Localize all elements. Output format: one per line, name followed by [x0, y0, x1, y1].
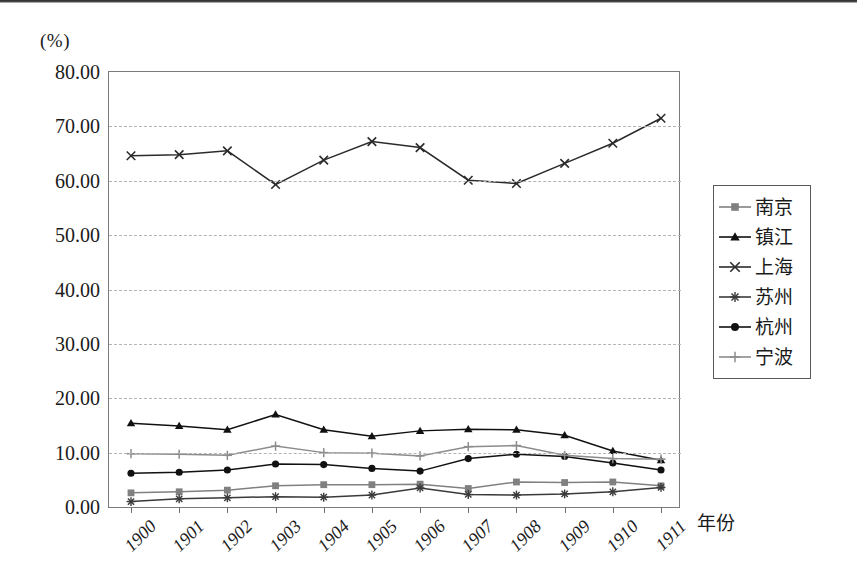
data-point-asterisk: [127, 497, 136, 506]
x-tick-label: 1902: [217, 516, 257, 556]
y-tick-label: 80.00: [8, 62, 100, 82]
data-point-plus: [512, 441, 521, 450]
legend-marker-cross-x-icon: [718, 257, 752, 277]
y-axis-unit-label: (%): [40, 30, 70, 52]
data-point-cross-x: [609, 139, 618, 148]
data-point-asterisk: [730, 292, 740, 302]
x-tick-label: 1907: [458, 516, 498, 556]
data-point-asterisk: [512, 491, 521, 500]
series-上海: [127, 114, 666, 189]
x-tick-label: 1905: [361, 516, 401, 556]
gridline: [109, 344, 681, 345]
legend-label: 杭州: [752, 318, 793, 337]
y-tick-label: 0.00: [8, 497, 100, 517]
legend-label: 宁波: [752, 348, 793, 367]
data-point-asterisk: [657, 483, 666, 492]
legend-label: 上海: [752, 258, 793, 277]
gridline: [109, 235, 681, 236]
data-point-asterisk: [560, 490, 569, 499]
x-axis-title: 年份: [697, 508, 735, 535]
x-tick-label: 1908: [506, 516, 546, 556]
y-tick-label: 40.00: [8, 280, 100, 300]
legend-marker-square-icon: [718, 197, 752, 217]
x-tick-label: 1904: [313, 516, 353, 556]
legend-marker-asterisk-icon: [718, 287, 752, 307]
y-tick-label: 20.00: [8, 388, 100, 408]
legend-item-上海[interactable]: 上海: [718, 252, 806, 282]
legend-item-杭州[interactable]: 杭州: [718, 312, 806, 342]
data-point-square: [176, 488, 183, 495]
data-point-square: [609, 479, 616, 486]
gridline: [109, 453, 681, 454]
legend-marker-circle-icon: [718, 317, 752, 337]
data-point-square: [272, 482, 279, 489]
data-point-triangle: [271, 410, 280, 417]
data-point-plus: [175, 450, 184, 459]
data-point-cross-x: [319, 156, 328, 165]
legend-marker-triangle-icon: [718, 227, 752, 247]
data-point-square: [561, 479, 568, 486]
data-point-plus: [271, 442, 280, 451]
x-axis-tick-labels: 1900190119021903190419051906190719081909…: [108, 508, 680, 578]
data-point-circle: [272, 460, 279, 467]
gridline: [109, 181, 681, 182]
data-point-asterisk: [464, 490, 473, 499]
gridline: [109, 290, 681, 291]
x-tick-label: 1909: [554, 516, 594, 556]
data-point-circle: [127, 470, 134, 477]
data-point-square: [128, 489, 135, 496]
data-point-square: [320, 481, 327, 488]
legend-label: 镇江: [752, 228, 793, 247]
legend-marker-plus-icon: [718, 347, 752, 367]
data-point-cross-x: [560, 159, 569, 168]
legend-item-宁波[interactable]: 宁波: [718, 342, 806, 372]
chart-figure: (%) 80.0070.0060.0050.0040.0030.0020.001…: [0, 0, 857, 586]
data-point-asterisk: [223, 493, 232, 502]
x-tick-label: 1906: [410, 516, 450, 556]
y-tick-label: 70.00: [8, 116, 100, 136]
x-tick-label: 1901: [169, 516, 209, 556]
data-point-square: [513, 479, 520, 486]
data-point-plus: [730, 352, 740, 362]
plot-area: [108, 71, 680, 508]
data-point-circle: [731, 323, 739, 331]
data-point-circle: [368, 465, 375, 472]
data-point-plus: [464, 442, 473, 451]
data-point-circle: [657, 466, 664, 473]
gridline: [109, 126, 681, 127]
data-point-plus: [126, 449, 135, 458]
y-tick-label: 10.00: [8, 443, 100, 463]
data-point-asterisk: [319, 493, 328, 502]
data-point-asterisk: [416, 484, 425, 493]
legend-label: 南京: [752, 198, 793, 217]
data-point-cross-x: [657, 114, 666, 123]
data-point-circle: [176, 469, 183, 476]
gridline: [109, 398, 681, 399]
data-point-circle: [465, 455, 472, 462]
data-point-square: [369, 481, 376, 488]
data-point-square: [224, 487, 231, 494]
data-point-asterisk: [608, 487, 617, 496]
y-axis-tick-labels: 80.0070.0060.0050.0040.0030.0020.0010.00…: [0, 71, 100, 508]
data-point-asterisk: [175, 494, 184, 503]
data-point-circle: [224, 466, 231, 473]
data-point-triangle: [127, 419, 136, 426]
data-point-asterisk: [271, 492, 280, 501]
data-point-square: [731, 203, 739, 211]
data-point-circle: [320, 461, 327, 468]
legend-item-苏州[interactable]: 苏州: [718, 282, 806, 312]
x-tick-label: 1903: [265, 516, 305, 556]
series-苏州: [127, 483, 666, 506]
chart-legend: 南京镇江上海苏州杭州宁波: [713, 185, 811, 379]
y-tick-label: 30.00: [8, 334, 100, 354]
x-tick-label: 1910: [602, 516, 642, 556]
x-tick-label: 1900: [121, 516, 161, 556]
data-point-circle: [417, 468, 424, 475]
legend-item-南京[interactable]: 南京: [718, 192, 806, 222]
y-tick-label: 50.00: [8, 225, 100, 245]
y-tick-label: 60.00: [8, 171, 100, 191]
legend-label: 苏州: [752, 288, 793, 307]
x-tick-label: 1911: [651, 516, 690, 555]
data-point-asterisk: [367, 491, 376, 500]
legend-item-镇江[interactable]: 镇江: [718, 222, 806, 252]
